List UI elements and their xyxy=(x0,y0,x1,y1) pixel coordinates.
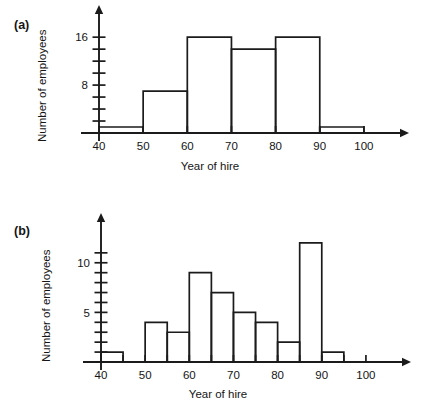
x-tick-label: 60 xyxy=(183,369,196,381)
x-tick-label: 70 xyxy=(227,369,240,381)
histogram-bar xyxy=(233,312,255,362)
x-axis-arrow xyxy=(400,129,409,137)
chart-canvas-b: 510405060708090100 xyxy=(0,210,428,420)
histogram-bar xyxy=(211,293,233,362)
x-tick-label: 60 xyxy=(181,140,194,152)
x-axis-arrow xyxy=(402,358,411,366)
x-tick-label: 80 xyxy=(271,369,284,381)
y-tick-label: 16 xyxy=(75,31,88,43)
histogram-bar xyxy=(143,91,187,133)
histogram-panel-a: (a) Number of employees Year of hire 816… xyxy=(0,0,428,210)
histogram-bar xyxy=(276,37,320,133)
histogram-panel-b: (b) Number of employees Year of hire 510… xyxy=(0,210,428,420)
y-tick-label: 10 xyxy=(77,257,90,269)
x-tick-label: 70 xyxy=(225,140,238,152)
histogram-bar xyxy=(187,37,231,133)
y-axis-arrow xyxy=(97,213,105,222)
histogram-bar xyxy=(278,342,300,362)
x-tick-label: 50 xyxy=(137,140,150,152)
x-tick-label: 90 xyxy=(313,140,326,152)
y-tick-label: 8 xyxy=(82,79,88,91)
y-tick-label: 5 xyxy=(84,307,90,319)
x-tick-label: 40 xyxy=(93,140,106,152)
x-tick-label: 100 xyxy=(356,369,375,381)
histogram-bar xyxy=(256,322,278,362)
x-tick-label: 40 xyxy=(95,369,108,381)
histogram-bar xyxy=(145,322,167,362)
histogram-bar xyxy=(101,352,123,362)
histogram-bar xyxy=(231,49,275,133)
histogram-bar xyxy=(189,273,211,362)
x-tick-label: 90 xyxy=(315,369,328,381)
y-axis-arrow xyxy=(95,5,103,14)
histogram-bar xyxy=(300,243,322,362)
x-tick-label: 80 xyxy=(269,140,282,152)
chart-canvas-a: 816405060708090100 xyxy=(0,0,428,210)
histogram-bar xyxy=(322,352,344,362)
x-tick-label: 50 xyxy=(139,369,152,381)
x-tick-label: 100 xyxy=(354,140,373,152)
histogram-bar xyxy=(167,332,189,362)
